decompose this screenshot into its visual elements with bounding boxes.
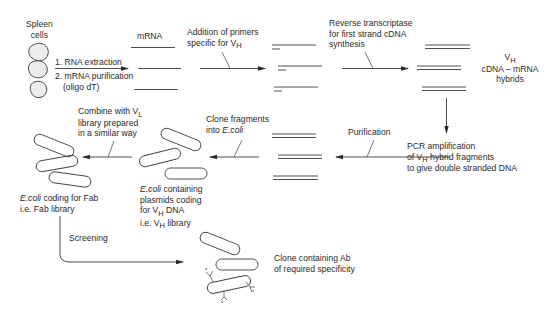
- diagram-canvas: * * * Spleen cells mRNA 1. RNA extractio…: [0, 0, 553, 313]
- pcr-amplification-label: PCR amplification of VH hybrid fragments…: [407, 141, 517, 174]
- purification-label: Purification: [348, 127, 391, 138]
- double-stranded-dna: [272, 134, 322, 180]
- clone-cells-icon: [198, 231, 258, 295]
- combine-vl-label: Combine with VL library prepared in a si…: [78, 106, 142, 139]
- purification-step-label: 2. mRNA purification (oligo dT): [55, 71, 133, 92]
- cdna-mrna-hybrids: [417, 45, 470, 91]
- leader-purification: [367, 140, 374, 157]
- clone-specificity-label: Clone containing Ab of required specific…: [274, 253, 355, 274]
- ecoli-vh-library-icon: [138, 127, 207, 179]
- extraction-step-label: 1. RNA extraction: [55, 57, 122, 68]
- leader-combine-vl: [108, 141, 114, 157]
- spleen-cells-label: Spleen cells: [26, 19, 53, 40]
- primers-step-label: Addition of primers specific for VH: [187, 27, 259, 49]
- ecoli-fab-library-icon: [32, 133, 91, 188]
- leader-reverse-transcriptase: [365, 52, 373, 69]
- mrna-label: mRNA: [137, 31, 162, 42]
- mrna-with-primers: [272, 45, 322, 91]
- mrna-strands: [131, 48, 181, 90]
- reverse-transcriptase-step-label: Reverse transcriptase for first strand c…: [329, 18, 413, 50]
- ecoli-vh-library-label: E.coli containing plasmids coding for VH…: [140, 184, 203, 229]
- clone-fragments-label: Clone fragments into E.coli: [206, 114, 269, 135]
- screening-label: Screening: [69, 233, 108, 244]
- hybrids-label: VH cDNA – mRNA hybrids: [476, 52, 544, 85]
- svg-text:*: *: [221, 300, 224, 306]
- ecoli-fab-library-label: E.coli coding for Fab i.e. Fab library: [20, 193, 98, 214]
- leader-clone-fragments: [234, 140, 242, 157]
- svg-text:*: *: [252, 289, 255, 295]
- spleen-cell-icon: [28, 43, 48, 97]
- svg-text:*: *: [205, 267, 208, 273]
- leader-primers: [222, 52, 230, 69]
